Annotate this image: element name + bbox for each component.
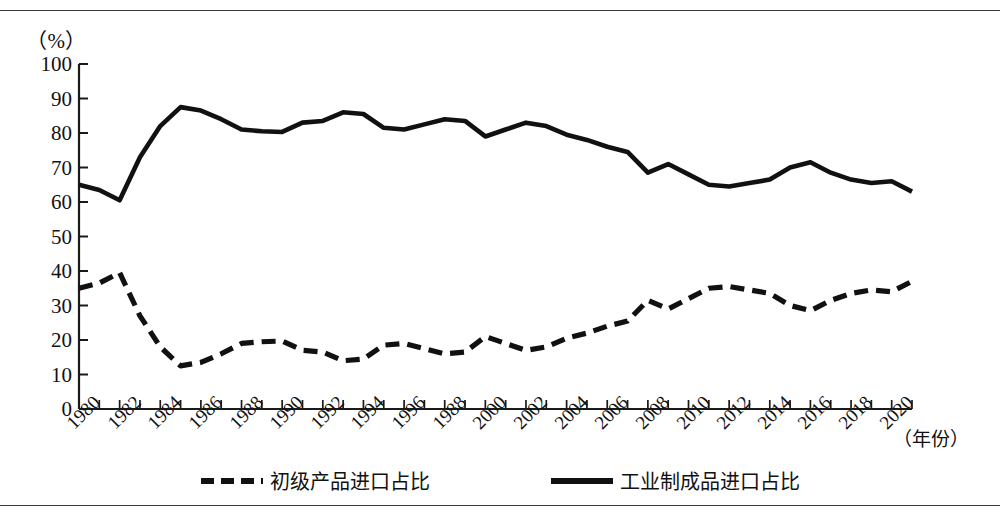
y-axis-tick-label: 10 [26, 365, 72, 386]
y-axis-tick-label: 30 [26, 296, 72, 317]
series-line-manufactured [79, 107, 912, 200]
y-axis-tick-label: 50 [26, 227, 72, 248]
legend-swatch-solid-icon [550, 475, 614, 487]
y-axis-tick-label: 100 [26, 54, 72, 75]
legend-item-primary[interactable]: 初级产品进口占比 [200, 466, 430, 495]
y-axis-tick-label: 40 [26, 261, 72, 282]
y-axis-tick-label: 90 [26, 89, 72, 110]
y-axis-tick-label: 70 [26, 158, 72, 179]
legend-label-manufactured: 工业制成品进口占比 [620, 466, 800, 495]
axes [79, 64, 912, 409]
series-line-primary [79, 273, 912, 366]
y-axis-tick-label: 60 [26, 192, 72, 213]
y-axis-tick-label: 20 [26, 330, 72, 351]
plot-canvas [0, 0, 1000, 516]
legend-label-primary: 初级产品进口占比 [270, 466, 430, 495]
chart-figure: （%） （年份） 1009080706050403020100 19801982… [0, 0, 1000, 516]
y-axis-ticks [79, 64, 88, 409]
data-series-layer [79, 107, 912, 366]
chart-legend: 初级产品进口占比 工业制成品进口占比 [0, 466, 1000, 495]
legend-item-manufactured[interactable]: 工业制成品进口占比 [550, 466, 800, 495]
y-axis-tick-label: 80 [26, 123, 72, 144]
legend-swatch-dashed-icon [200, 475, 264, 487]
